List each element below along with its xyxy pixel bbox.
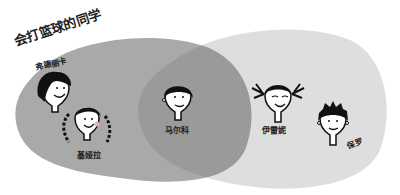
member-name-irene: 伊雷妮 bbox=[261, 125, 286, 135]
set-basketball-title: 会打篮球的同学 bbox=[12, 6, 103, 48]
venn-diagram: 会打篮球的同学 弗德丽卡 基娅拉 马尔科 伊雷妮 bbox=[0, 0, 400, 195]
member-name-chiara: 基娅拉 bbox=[76, 150, 101, 160]
member-name-marco: 马尔科 bbox=[165, 125, 189, 135]
